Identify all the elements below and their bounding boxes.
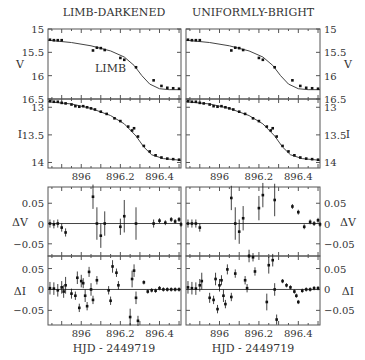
data-point <box>281 145 284 148</box>
data-point <box>208 297 211 300</box>
data-point <box>220 279 223 282</box>
data-point <box>109 299 112 302</box>
y-axis-label: V <box>343 58 353 71</box>
data-point <box>187 38 190 41</box>
data-point <box>224 303 227 306</box>
y-tick-label: −0.05 <box>13 239 44 250</box>
data-point <box>265 301 268 304</box>
data-point <box>262 194 265 197</box>
data-point <box>162 288 165 291</box>
y-tick-label: 15.5 <box>324 47 346 58</box>
data-point <box>174 220 177 223</box>
data-point <box>137 135 140 138</box>
data-point <box>49 100 52 103</box>
x-tick-label: 896.4 <box>145 328 174 339</box>
x-tick-label: 896.4 <box>284 171 313 182</box>
y-tick-label: 0.05 <box>22 198 44 209</box>
data-point <box>258 207 261 210</box>
data-point <box>113 117 116 120</box>
data-point <box>178 288 181 291</box>
data-point <box>64 231 67 234</box>
x-tick-label: 896.2 <box>106 328 135 339</box>
data-point <box>90 288 93 291</box>
panel-V-right: 1515.51616.5V <box>186 24 353 105</box>
data-point <box>174 288 177 291</box>
y-tick-label: 16 <box>31 71 44 82</box>
data-point <box>92 49 95 52</box>
data-point <box>317 219 320 222</box>
data-point <box>228 107 231 110</box>
data-point <box>123 215 126 218</box>
data-point <box>56 39 59 42</box>
data-point <box>86 106 89 109</box>
data-point <box>198 102 201 105</box>
data-point <box>187 286 190 289</box>
data-point <box>297 301 300 304</box>
data-point <box>212 105 215 108</box>
data-point <box>96 279 99 282</box>
data-point <box>297 211 300 214</box>
data-point <box>267 264 270 267</box>
data-point <box>135 66 138 69</box>
data-point <box>303 225 306 228</box>
data-point <box>313 287 316 290</box>
data-point <box>103 222 106 225</box>
data-point <box>170 288 173 291</box>
data-point <box>248 255 251 258</box>
data-point <box>218 284 221 287</box>
data-point <box>119 57 122 60</box>
y-tick-label: −0.05 <box>13 305 44 316</box>
data-point <box>56 222 59 225</box>
plot-frame <box>186 256 320 325</box>
data-point <box>305 157 308 160</box>
x-tick-label: 896.4 <box>145 171 174 182</box>
data-point <box>265 125 268 128</box>
data-point <box>119 225 122 228</box>
y-tick-label: 16 <box>324 71 337 82</box>
data-point <box>154 289 157 292</box>
data-point <box>309 221 312 224</box>
data-point <box>107 289 110 292</box>
data-point <box>311 158 314 161</box>
data-point <box>53 39 56 42</box>
data-point <box>166 87 169 90</box>
data-point <box>60 102 63 105</box>
x-tick-label: 896 <box>210 328 229 339</box>
data-point <box>111 265 114 268</box>
data-point <box>191 39 194 42</box>
data-point <box>212 299 215 302</box>
data-point <box>56 289 59 292</box>
data-point <box>244 113 247 116</box>
data-point <box>74 105 77 108</box>
data-point <box>191 100 194 103</box>
data-point <box>105 113 108 116</box>
data-point <box>60 226 63 229</box>
data-point <box>242 217 245 220</box>
data-point <box>242 49 245 52</box>
data-point <box>178 87 181 90</box>
data-point <box>88 271 91 274</box>
data-point <box>100 110 103 113</box>
data-point <box>53 100 56 103</box>
data-point <box>78 307 81 310</box>
data-point <box>115 271 118 274</box>
y-axis-label: ΔI <box>342 285 354 298</box>
data-point <box>119 120 122 123</box>
panel-dV-right: 0.050−0.05ΔV <box>186 183 357 256</box>
limb-annotation: LIMB <box>95 62 126 75</box>
y-tick-label: 15 <box>31 24 44 35</box>
data-point <box>234 222 237 225</box>
data-point <box>146 290 149 293</box>
data-point <box>287 150 290 153</box>
x-tick-label: 896.2 <box>245 171 274 182</box>
data-point <box>198 284 201 287</box>
data-point <box>137 320 140 323</box>
data-point <box>222 294 225 297</box>
data-point <box>319 223 322 226</box>
y-tick-label: 0 <box>38 284 44 295</box>
panel-dI-left: 0.050−0.05ΔI896896.2896.4 <box>13 256 181 339</box>
data-point <box>152 222 155 225</box>
data-point <box>166 157 169 160</box>
y-axis-label: ΔI <box>14 285 26 298</box>
data-point <box>246 287 249 290</box>
